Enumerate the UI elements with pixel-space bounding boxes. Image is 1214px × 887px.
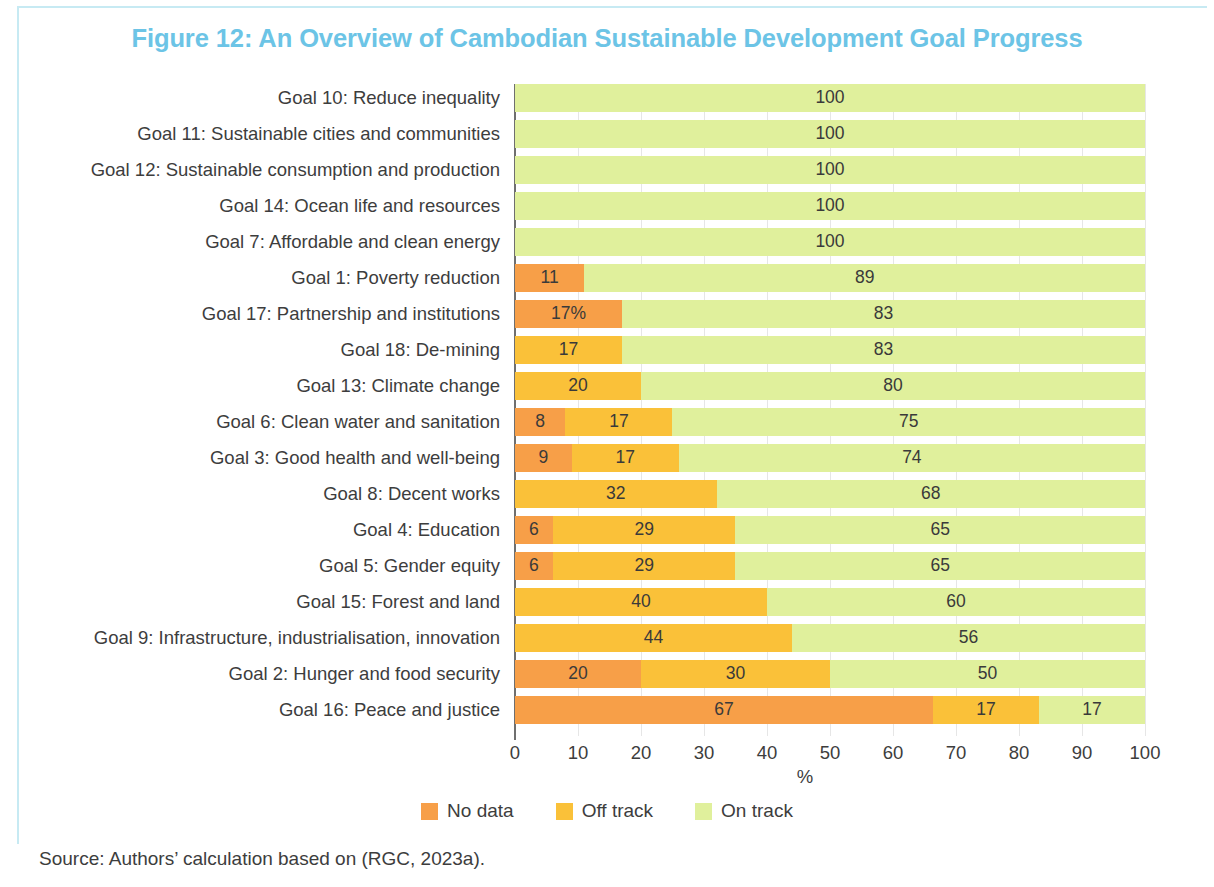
bar-segment-on-track: 65 — [735, 516, 1145, 544]
category-label: Goal 5: Gender equity — [319, 548, 500, 584]
x-axis-tick-label: 10 — [568, 742, 589, 764]
stacked-bar: 100 — [515, 156, 1145, 184]
bar-segment-value: 100 — [815, 125, 844, 143]
x-axis-tick-label: 30 — [694, 742, 715, 764]
x-axis-title-text: % — [797, 766, 813, 787]
stacked-bar-chart: Goal 10: Reduce inequality100Goal 11: Su… — [0, 80, 1214, 740]
stacked-bar: 203050 — [515, 660, 1145, 688]
bar-segment-value: 75 — [899, 413, 918, 431]
bar-segment-no-data: 9 — [515, 444, 572, 472]
stacked-bar: 100 — [515, 228, 1145, 256]
figure-title: Figure 12: An Overview of Cambodian Sust… — [0, 24, 1214, 53]
figure-source-note: Source: Authors’ calculation based on (R… — [39, 848, 485, 870]
legend-label: No data — [447, 800, 514, 822]
bar-segment-on-track: 65 — [735, 552, 1145, 580]
stacked-bar: 91774 — [515, 444, 1145, 472]
bar-segment-value: 60 — [946, 593, 965, 611]
stacked-bar: 81775 — [515, 408, 1145, 436]
bar-segment-value: 29 — [634, 521, 653, 539]
chart-row: Goal 2: Hunger and food security203050 — [0, 656, 1214, 692]
chart-row: Goal 16: Peace and justice671717 — [0, 692, 1214, 728]
x-axis-title: % — [0, 766, 1214, 788]
bar-segment-value: 30 — [726, 665, 745, 683]
stacked-bar: 100 — [515, 120, 1145, 148]
bar-segment-value: 65 — [931, 521, 950, 539]
legend-swatch-icon — [556, 803, 573, 820]
legend-item[interactable]: No data — [421, 800, 514, 822]
category-label: Goal 13: Climate change — [296, 368, 500, 404]
bar-segment-value: 17 — [559, 341, 578, 359]
bar-segment-value: 17 — [1082, 701, 1101, 719]
category-label: Goal 12: Sustainable consumption and pro… — [91, 152, 500, 188]
bar-segment-value: 100 — [815, 197, 844, 215]
bar-segment-value: 8 — [535, 413, 545, 431]
legend-swatch-icon — [421, 803, 438, 820]
stacked-bar: 62965 — [515, 516, 1145, 544]
bar-segment-off-track: 17 — [565, 408, 672, 436]
bar-segment-value: 17 — [609, 413, 628, 431]
bar-segment-on-track: 17 — [1039, 696, 1145, 724]
figure-page: Figure 12: An Overview of Cambodian Sust… — [0, 0, 1214, 887]
chart-row: Goal 8: Decent works3268 — [0, 476, 1214, 512]
bar-segment-value: 68 — [921, 485, 940, 503]
bar-segment-on-track: 100 — [515, 156, 1145, 184]
legend-item[interactable]: On track — [695, 800, 793, 822]
bar-segment-value: 29 — [634, 557, 653, 575]
chart-row: Goal 15: Forest and land4060 — [0, 584, 1214, 620]
stacked-bar: 1189 — [515, 264, 1145, 292]
bar-segment-on-track: 68 — [717, 480, 1145, 508]
bar-segment-value: 100 — [815, 161, 844, 179]
bar-segment-value: 83 — [874, 341, 893, 359]
category-label: Goal 11: Sustainable cities and communit… — [137, 116, 500, 152]
bar-segment-on-track: 100 — [515, 192, 1145, 220]
x-axis-tick-label: 20 — [631, 742, 652, 764]
chart-row: Goal 6: Clean water and sanitation81775 — [0, 404, 1214, 440]
bar-segment-value: 11 — [541, 269, 559, 287]
x-axis-tick-label: 80 — [1009, 742, 1030, 764]
x-axis-tick-label: 90 — [1072, 742, 1093, 764]
bar-segment-value: 67 — [714, 701, 733, 719]
bar-segment-on-track: 100 — [515, 228, 1145, 256]
chart-row: Goal 17: Partnership and institutions17%… — [0, 296, 1214, 332]
bar-segment-value: 100 — [815, 89, 844, 107]
bar-segment-off-track: 29 — [553, 516, 736, 544]
stacked-bar: 4060 — [515, 588, 1145, 616]
legend-swatch-icon — [695, 803, 712, 820]
legend-item[interactable]: Off track — [556, 800, 653, 822]
stacked-bar: 3268 — [515, 480, 1145, 508]
stacked-bar: 100 — [515, 84, 1145, 112]
bar-segment-value: 17% — [551, 305, 586, 323]
bar-segment-off-track: 20 — [515, 372, 641, 400]
bar-segment-value: 83 — [874, 305, 893, 323]
chart-row: Goal 18: De-mining1783 — [0, 332, 1214, 368]
bar-segment-off-track: 17 — [515, 336, 622, 364]
category-label: Goal 8: Decent works — [323, 476, 500, 512]
bar-segment-on-track: 80 — [641, 372, 1145, 400]
chart-row: Goal 10: Reduce inequality100 — [0, 80, 1214, 116]
stacked-bar: 4456 — [515, 624, 1145, 652]
bar-segment-value: 50 — [978, 665, 997, 683]
bar-segment-value: 44 — [644, 629, 663, 647]
bar-segment-off-track: 30 — [641, 660, 830, 688]
bar-segment-on-track: 56 — [792, 624, 1145, 652]
bar-segment-off-track: 29 — [553, 552, 736, 580]
category-label: Goal 9: Infrastructure, industrialisatio… — [94, 620, 500, 656]
bar-segment-off-track: 17 — [572, 444, 679, 472]
bar-segment-on-track: 75 — [672, 408, 1145, 436]
bar-segment-value: 32 — [606, 485, 625, 503]
bar-segment-value: 40 — [631, 593, 650, 611]
bar-segment-value: 100 — [815, 233, 844, 251]
legend-label: Off track — [582, 800, 653, 822]
bar-segment-on-track: 83 — [622, 300, 1145, 328]
bar-segment-value: 6 — [529, 557, 539, 575]
bar-segment-on-track: 50 — [830, 660, 1145, 688]
chart-row: Goal 12: Sustainable consumption and pro… — [0, 152, 1214, 188]
chart-row: Goal 9: Infrastructure, industrialisatio… — [0, 620, 1214, 656]
legend-label: On track — [721, 800, 793, 822]
bar-segment-on-track: 100 — [515, 120, 1145, 148]
chart-row: Goal 14: Ocean life and resources100 — [0, 188, 1214, 224]
x-axis-tick-label: 70 — [946, 742, 967, 764]
bar-segment-no-data: 8 — [515, 408, 565, 436]
category-label: Goal 6: Clean water and sanitation — [216, 404, 500, 440]
figure-frame-top-border — [17, 6, 1207, 8]
